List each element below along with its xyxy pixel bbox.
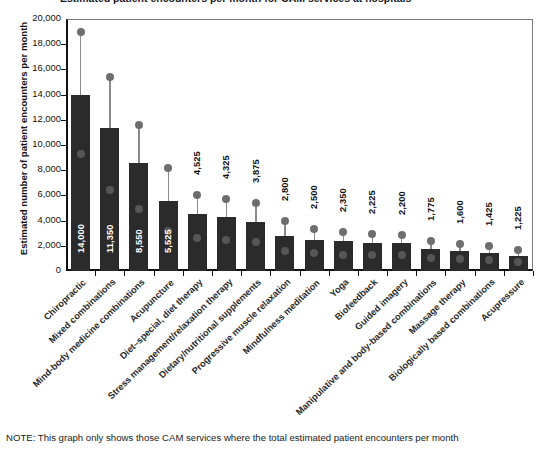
- y-axis-tick-label: 10,000: [32, 138, 61, 149]
- lower-estimate-marker: [427, 254, 435, 262]
- range-line: [109, 77, 110, 128]
- bar-value-label: 3,875: [251, 159, 261, 183]
- bar-group[interactable]: 1,600: [445, 19, 474, 271]
- range-line: [80, 32, 81, 95]
- bar-group[interactable]: 2,500: [300, 19, 329, 271]
- bar-value-label: 1,775: [426, 197, 436, 221]
- y-axis-tick-label: 18,000: [32, 37, 61, 48]
- bar-value-label: 2,225: [367, 191, 377, 215]
- bar-group[interactable]: 1,425: [475, 19, 504, 271]
- lower-estimate-marker: [77, 150, 85, 158]
- bar[interactable]: [129, 163, 148, 271]
- chart-note: NOTE: This graph only shows those CAM se…: [6, 432, 545, 443]
- upper-estimate-marker: [193, 191, 201, 199]
- upper-estimate-marker: [135, 121, 143, 129]
- lower-estimate-marker: [252, 238, 260, 246]
- bar-group[interactable]: 3,875: [241, 19, 270, 271]
- lower-estimate-marker: [339, 251, 347, 259]
- upper-estimate-marker: [222, 195, 230, 203]
- bar[interactable]: [217, 217, 236, 271]
- y-axis-tick-label: 6,000: [38, 188, 61, 199]
- bar-group[interactable]: 5,525: [154, 19, 183, 271]
- y-axis-tick-label: 16,000: [32, 62, 61, 73]
- upper-estimate-marker: [368, 230, 376, 238]
- bar-value-label: 11,350: [105, 224, 115, 253]
- lower-estimate-marker: [398, 251, 406, 259]
- chart-title-text: Estimated patient encounters per month f…: [60, 0, 411, 4]
- bar-group[interactable]: 4,525: [183, 19, 212, 271]
- bar-group[interactable]: 2,350: [329, 19, 358, 271]
- bar-group[interactable]: 11,350: [95, 19, 124, 271]
- y-axis-tick-label: 20,000: [32, 12, 61, 23]
- y-axis-tick-label: 14,000: [32, 88, 61, 99]
- clipped-chart-title: Estimated patient encounters per month f…: [0, 0, 545, 8]
- bar-group[interactable]: 8,550: [124, 19, 153, 271]
- bar-group[interactable]: 1,775: [416, 19, 445, 271]
- bar[interactable]: [188, 214, 207, 271]
- upper-estimate-marker: [106, 73, 114, 81]
- bar-group[interactable]: 14,000: [66, 19, 95, 271]
- y-axis-tick-label: 8,000: [38, 163, 61, 174]
- bar-series: 14,00011,3508,5505,5254,5254,3253,8752,8…: [66, 19, 533, 271]
- bar-group[interactable]: 2,800: [270, 19, 299, 271]
- bar-group[interactable]: 2,225: [358, 19, 387, 271]
- bar-value-label: 1,600: [455, 200, 465, 224]
- upper-estimate-marker: [485, 242, 493, 250]
- bar-group[interactable]: 4,325: [212, 19, 241, 271]
- upper-estimate-marker: [456, 240, 464, 248]
- upper-estimate-marker: [164, 164, 172, 172]
- upper-estimate-marker: [398, 231, 406, 239]
- upper-estimate-marker: [339, 228, 347, 236]
- lower-estimate-marker: [222, 236, 230, 244]
- bar-value-label: 14,000: [76, 224, 86, 253]
- y-axis-tick-label: 4,000: [38, 214, 61, 225]
- chart-figure: Estimated patient encounters per month f…: [0, 0, 545, 453]
- bar-value-label: 1,425: [484, 203, 494, 227]
- upper-estimate-marker: [310, 225, 318, 233]
- upper-estimate-marker: [281, 217, 289, 225]
- bar-value-label: 1,225: [513, 206, 523, 230]
- lower-estimate-marker: [514, 258, 522, 266]
- bar-value-label: 2,200: [397, 191, 407, 215]
- bar-value-label: 2,800: [280, 177, 290, 201]
- bar-group[interactable]: 1,225: [504, 19, 533, 271]
- y-axis-tick-label: 12,000: [32, 113, 61, 124]
- upper-estimate-marker: [252, 199, 260, 207]
- bar-value-label: 2,500: [309, 186, 319, 210]
- x-axis-labels: ChiropracticMixed combinationsMind-body …: [0, 271, 545, 431]
- bar-value-label: 8,550: [134, 229, 144, 253]
- range-line: [138, 125, 139, 163]
- y-axis-tick-label: 2,000: [38, 239, 61, 250]
- upper-estimate-marker: [77, 28, 85, 36]
- bar[interactable]: [246, 222, 265, 271]
- bar-value-label: 5,525: [163, 229, 173, 253]
- range-line: [168, 168, 169, 201]
- bar-group[interactable]: 2,200: [387, 19, 416, 271]
- y-axis-title: Estimated number of patient encounters p…: [18, 10, 29, 268]
- bar-value-label: 2,350: [338, 189, 348, 213]
- upper-estimate-marker: [427, 237, 435, 245]
- bar-value-label: 4,325: [221, 155, 231, 179]
- x-axis-category-label: Yoga: [328, 277, 351, 299]
- x-axis-category-label: Guided imagery: [353, 277, 410, 332]
- x-axis-category-label: Biologically based combinations: [387, 277, 497, 383]
- bar-value-label: 4,525: [192, 152, 202, 176]
- lower-estimate-marker: [456, 255, 464, 263]
- upper-estimate-marker: [514, 246, 522, 254]
